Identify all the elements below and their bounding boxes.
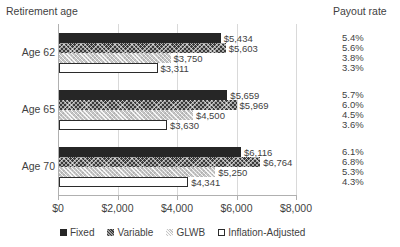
legend-swatch-icon — [166, 229, 173, 236]
x-axis-label: $8,000 — [280, 202, 312, 214]
bar-fixed[interactable] — [59, 33, 221, 43]
x-axis-label: $4,000 — [161, 202, 193, 214]
bar-group: Age 65$5,659$5,969$4,500$3,630 — [59, 90, 297, 130]
bar-value-label: $3,311 — [158, 62, 189, 73]
bar-row: $5,603 — [59, 43, 297, 53]
bar-row: $4,500 — [59, 110, 297, 120]
category-label: Age 70 — [3, 160, 55, 172]
bar-row: $5,659 — [59, 90, 297, 100]
x-axis-tick — [177, 196, 178, 200]
bar-variable[interactable] — [59, 43, 226, 53]
bar-value-label: $5,603 — [226, 42, 258, 53]
bar-group: Age 70$6,116$6,764$5,250$4,341 — [59, 147, 297, 187]
bar-group: Age 62$5,434$5,603$3,750$3,311 — [59, 33, 297, 73]
x-axis-label: $0 — [52, 202, 64, 214]
legend-label: Variable — [117, 227, 153, 238]
legend-item-glwb[interactable]: GLWB — [166, 227, 205, 238]
legend-label: Inflation-Adjusted — [228, 227, 305, 238]
x-axis-tick — [118, 196, 119, 200]
payout-rate-value: 3.3% — [342, 62, 364, 73]
category-label: Age 65 — [3, 103, 55, 115]
x-axis-line — [58, 195, 297, 196]
bar-row: $5,250 — [59, 167, 297, 177]
bar-inflation-adjusted[interactable] — [59, 63, 158, 73]
chart-legend: FixedVariableGLWBInflation-Adjusted — [60, 227, 305, 238]
bar-glwb[interactable] — [59, 110, 193, 120]
bar-value-label: $4,341 — [188, 177, 220, 188]
bar-row: $3,630 — [59, 120, 297, 130]
bar-variable[interactable] — [59, 100, 237, 110]
x-axis-label: $6,000 — [220, 202, 252, 214]
bar-glwb[interactable] — [59, 53, 171, 63]
bar-inflation-adjusted[interactable] — [59, 120, 167, 130]
category-label: Age 62 — [3, 46, 55, 58]
legend-label: Fixed — [70, 227, 94, 238]
payout-rate-value: 3.6% — [342, 119, 364, 130]
bar-row: $5,434 — [59, 33, 297, 43]
bar-row: $6,116 — [59, 147, 297, 157]
bar-row: $3,311 — [59, 63, 297, 73]
x-axis-tick — [237, 196, 238, 200]
bar-variable[interactable] — [59, 157, 260, 167]
plot-area: $0$2,000$4,000$6,000$8,000Age 62$5,434$5… — [58, 24, 297, 196]
legend-item-fixed[interactable]: Fixed — [60, 227, 94, 238]
bar-row: $6,764 — [59, 157, 297, 167]
bar-glwb[interactable] — [59, 167, 215, 177]
bar-value-label: $3,630 — [167, 120, 199, 131]
legend-swatch-icon — [218, 229, 225, 236]
bar-value-label: $6,764 — [260, 157, 292, 168]
bar-fixed[interactable] — [59, 147, 241, 157]
bar-inflation-adjusted[interactable] — [59, 177, 188, 187]
retirement-age-header: Retirement age — [6, 5, 78, 17]
x-axis-label: $2,000 — [101, 202, 133, 214]
x-axis-tick — [58, 196, 59, 200]
bar-fixed[interactable] — [59, 90, 227, 100]
legend-item-inflation-adjusted[interactable]: Inflation-Adjusted — [218, 227, 305, 238]
bar-value-label: $5,969 — [237, 100, 269, 111]
legend-swatch-icon — [60, 229, 67, 236]
annuity-income-chart: Retirement age Payout rate $0$2,000$4,00… — [0, 0, 400, 247]
legend-label: GLWB — [176, 227, 205, 238]
bar-row: $5,969 — [59, 100, 297, 110]
payout-rate-header: Payout rate — [333, 5, 387, 17]
payout-rate-value: 4.3% — [342, 176, 364, 187]
legend-item-variable[interactable]: Variable — [107, 227, 153, 238]
legend-swatch-icon — [107, 229, 114, 236]
x-axis-tick — [296, 196, 297, 200]
bar-row: $3,750 — [59, 53, 297, 63]
bar-row: $4,341 — [59, 177, 297, 187]
